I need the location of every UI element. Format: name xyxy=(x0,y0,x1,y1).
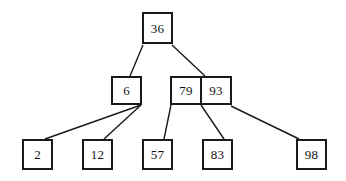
node-key: 57 xyxy=(144,141,171,168)
tree-node-leaf-57[interactable]: 57 xyxy=(142,139,173,170)
tree-edge xyxy=(130,45,143,76)
tree-node-root[interactable]: 36 xyxy=(142,12,173,44)
node-key: 93 xyxy=(200,78,230,103)
tree-node-leaf-83[interactable]: 83 xyxy=(202,139,233,170)
tree-edge xyxy=(231,106,299,139)
node-key: 12 xyxy=(84,141,111,168)
tree-edge xyxy=(164,105,171,139)
tree-node-leaf-12[interactable]: 12 xyxy=(82,139,113,170)
b-tree-diagram: 3667993212578398 xyxy=(0,0,346,181)
tree-edge xyxy=(104,105,141,139)
tree-edge xyxy=(201,105,224,139)
node-key: 2 xyxy=(24,141,51,168)
tree-node-internal-right[interactable]: 7993 xyxy=(170,76,232,105)
tree-node-internal-left[interactable]: 6 xyxy=(111,76,142,105)
node-key: 98 xyxy=(298,141,325,168)
tree-edge xyxy=(172,45,205,76)
tree-node-leaf-98[interactable]: 98 xyxy=(296,139,327,170)
node-key: 83 xyxy=(204,141,231,168)
node-key: 36 xyxy=(144,14,171,42)
node-key: 6 xyxy=(113,78,140,103)
tree-node-leaf-2[interactable]: 2 xyxy=(22,139,53,170)
node-key: 79 xyxy=(172,78,200,103)
tree-edge xyxy=(45,105,141,139)
